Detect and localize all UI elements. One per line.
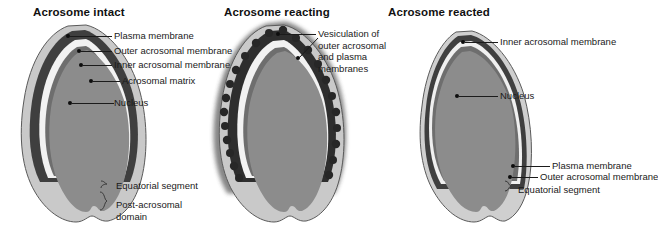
leader-line-outer-acrosomal-membrane bbox=[512, 177, 538, 178]
leader-line-outer-acrosomal-membrane bbox=[81, 51, 112, 52]
leader-line-nucleus bbox=[459, 96, 498, 97]
panel-acrosome-intact: Acrosome intact Plasma bbox=[0, 0, 204, 234]
label-inner-acrosomal-membrane: Inner acrosomal membrane bbox=[500, 36, 616, 48]
leader-line-plasma-membrane bbox=[515, 166, 550, 167]
leader-line-nucleus bbox=[72, 103, 114, 104]
label-plasma-membrane: Plasma membrane bbox=[114, 30, 194, 42]
label-plasma-membrane: Plasma membrane bbox=[552, 160, 632, 172]
label-nucleus: Nucleus bbox=[500, 90, 534, 102]
leader-line-plasma-membrane bbox=[70, 36, 112, 37]
label-equatorial-segment: Equatorial segment bbox=[116, 180, 198, 192]
label-post-acrosomal-domain: Post-acrosomal domain bbox=[116, 199, 188, 222]
leader-line-inner-acrosomal-membrane bbox=[83, 65, 112, 66]
leader-line-acrosomal-matrix bbox=[93, 81, 120, 82]
label-outer-acrosomal-membrane: Outer acrosomal membrane bbox=[540, 171, 658, 183]
label-nucleus: Nucleus bbox=[114, 97, 148, 109]
label-vesiculation: Vesiculation of outer acrosomal and plas… bbox=[318, 28, 402, 74]
panel-acrosome-reacted: Acrosome reacted Inner acrosomal membran… bbox=[400, 0, 611, 234]
panel-acrosome-reacting: Acrosome reacting bbox=[204, 0, 400, 234]
label-equatorial-segment: Equatorial segment bbox=[518, 184, 600, 196]
label-acrosomal-matrix: Acrosomal matrix bbox=[122, 75, 195, 87]
leader-line-vesiculation-side bbox=[296, 38, 320, 60]
leader-line-inner-acrosomal-membrane bbox=[465, 42, 498, 43]
leader-line-vesiculation-apex bbox=[280, 34, 316, 35]
